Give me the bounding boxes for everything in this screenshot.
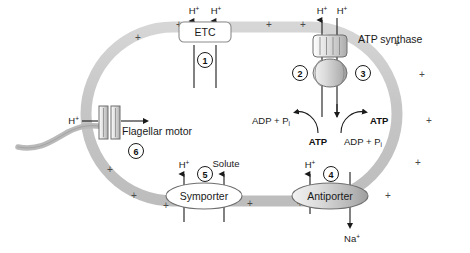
membrane-charge: + <box>107 164 113 175</box>
membrane-charge: + <box>415 157 421 168</box>
callout-number-5: 5 <box>202 170 207 180</box>
atp-synthase-proton-label-right: H+ <box>337 5 348 16</box>
membrane-charge: + <box>300 19 306 30</box>
atp-synthase-proton-label-left: H+ <box>317 5 328 16</box>
flagellar-motor-complex[interactable]: H+ Flagellar motor 6 <box>18 106 193 159</box>
atp-synthase-f0-barrel[interactable] <box>313 35 347 57</box>
membrane-charge: + <box>163 200 169 211</box>
callout-number-6: 6 <box>133 147 138 157</box>
callout-number-3: 3 <box>360 69 365 79</box>
flagellar-motor-rotor[interactable] <box>99 106 120 139</box>
membrane-charge: + <box>385 190 391 201</box>
membrane-charge: + <box>131 190 137 201</box>
atp-right-product-label: ATP <box>370 115 389 126</box>
etc-proton-label-left: H+ <box>189 5 200 16</box>
callout-number-1: 1 <box>202 56 207 66</box>
atp-synthase-f1-head[interactable] <box>313 59 347 87</box>
flagellar-proton-label: H+ <box>68 115 79 126</box>
atp-left-products-label: ADP + Pi <box>252 115 290 127</box>
symporter-complex[interactable]: Symporter H+ Solute 5 <box>166 158 242 222</box>
atp-synthase-label: ATP synthase <box>358 33 423 45</box>
antiporter-sodium-label: Na+ <box>344 233 360 244</box>
etc-proton-label-right: H+ <box>211 5 222 16</box>
antiporter-label: Antiporter <box>307 190 353 202</box>
membrane-charge: + <box>247 198 253 209</box>
symporter-label: Symporter <box>180 190 229 202</box>
membrane-charge: + <box>419 69 425 80</box>
atp-hydrolysis-arrow <box>296 112 318 133</box>
etc-complex[interactable]: ETC H+ H+ 1 <box>179 5 231 88</box>
diagram-canvas: + + + + + + + + + + + + + + + ETC H+ H+ <box>0 0 470 253</box>
antiporter-proton-label: H+ <box>305 159 316 170</box>
membrane-charge: + <box>426 115 432 126</box>
callout-number-4: 4 <box>328 170 333 180</box>
flagellar-motor-label: Flagellar motor <box>122 125 193 137</box>
symporter-solute-label: Solute <box>213 158 240 169</box>
atp-left-reactant-label: ATP <box>309 136 328 147</box>
antiporter-complex[interactable]: Antiporter H+ Na+ 4 <box>292 159 368 244</box>
membrane-charge: + <box>135 32 141 43</box>
symporter-proton-label: H+ <box>179 159 190 170</box>
atp-synthesis-arrow <box>341 112 365 133</box>
etc-label: ETC <box>195 26 216 38</box>
atp-right-reactants-label: ADP + Pi <box>344 136 382 148</box>
membrane-charge: + <box>266 19 272 30</box>
callout-number-2: 2 <box>297 69 302 79</box>
